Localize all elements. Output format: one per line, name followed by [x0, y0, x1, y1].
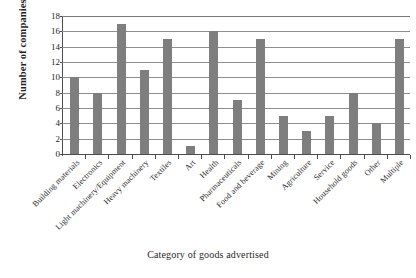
gridline-18 [62, 16, 410, 17]
y-axis-line [62, 17, 63, 156]
gridline-8 [62, 93, 410, 94]
y-tick-label: 16 [38, 27, 60, 36]
bar [233, 100, 242, 154]
bar-chart: Number of companies 024681012141618 Buil… [0, 0, 416, 278]
bar [325, 116, 334, 154]
gridline-16 [62, 31, 410, 32]
bar [117, 24, 126, 154]
gridline-14 [62, 47, 410, 48]
bar [163, 39, 172, 154]
y-tick-label: 12 [38, 58, 60, 67]
y-axis-title: Number of companies [17, 0, 28, 110]
gridline-12 [62, 62, 410, 63]
x-axis-line [62, 154, 410, 155]
plot-area [62, 17, 410, 155]
y-axis-tick-labels: 024681012141618 [36, 17, 60, 155]
bar [349, 93, 358, 154]
gridline-10 [62, 77, 410, 78]
y-tick-label: 8 [38, 89, 60, 98]
y-tick-label: 10 [38, 73, 60, 82]
x-axis-category-labels: Building materialsElectronicsLight machi… [0, 156, 416, 238]
bar [279, 116, 288, 154]
bar [395, 39, 404, 154]
y-tick-label: 4 [38, 119, 60, 128]
bar [140, 70, 149, 154]
bar [256, 39, 265, 154]
y-tick-label: 6 [38, 104, 60, 113]
bar [372, 123, 381, 154]
bar [186, 146, 195, 154]
bar [70, 77, 79, 154]
bar [93, 93, 102, 154]
y-tick-label: 18 [38, 12, 60, 21]
x-axis-title: Category of goods advertised [0, 249, 416, 260]
bar [209, 31, 218, 154]
bar [302, 131, 311, 154]
y-tick-label: 2 [38, 135, 60, 144]
y-tick-label: 14 [38, 43, 60, 52]
